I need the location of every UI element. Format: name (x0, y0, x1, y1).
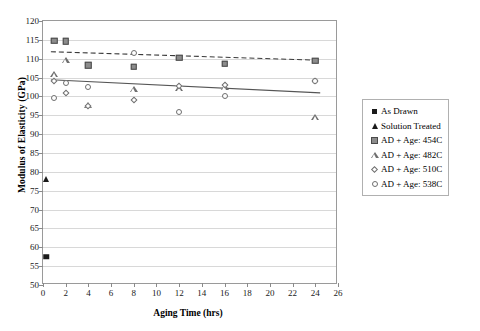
triangle-filled-icon (372, 123, 378, 129)
square-gray-icon (371, 137, 378, 144)
x-tick-label: 24 (311, 288, 320, 298)
data-point (44, 254, 50, 260)
y-tick-label: 120 (26, 16, 40, 26)
data-point (62, 57, 70, 63)
data-point (312, 78, 318, 84)
y-tick-label: 65 (30, 223, 39, 233)
data-point (176, 109, 182, 115)
y-tick-label: 60 (30, 242, 39, 252)
x-tick-mark (315, 283, 316, 287)
data-point (130, 86, 138, 92)
y-tick-label: 95 (30, 110, 39, 120)
data-point (43, 176, 49, 182)
data-point (51, 95, 57, 101)
x-axis-title: Aging Time (hrs) (38, 308, 338, 318)
x-tick-label: 12 (175, 288, 184, 298)
legend-item-label: Solution Treated (381, 121, 441, 131)
legend-marker-icon (368, 123, 381, 129)
chart-legend: As DrawnSolution TreatedAD + Age: 454CAD… (362, 99, 449, 196)
y-axis-title: Modulus of Elasticity (GPa) (17, 35, 27, 235)
legend-item[interactable]: AD + Age: 510C (368, 162, 442, 177)
y-tick-label: 75 (30, 186, 39, 196)
x-tick-mark (134, 283, 135, 287)
data-point (131, 50, 137, 56)
x-tick-label: 0 (41, 288, 46, 298)
y-tick-label: 85 (30, 148, 39, 158)
circle-open-icon (372, 181, 378, 187)
y-tick-label: 105 (26, 73, 40, 83)
x-tick-mark (66, 283, 67, 287)
legend-marker-icon (368, 137, 381, 144)
plot-area: 50556065707580859095100105110115120 0246… (42, 20, 337, 284)
x-tick-label: 6 (109, 288, 114, 298)
legend-item-label: As Drawn (381, 106, 418, 116)
data-point (176, 55, 183, 62)
x-tick-mark (293, 283, 294, 287)
x-tick-label: 16 (220, 288, 229, 298)
data-point (50, 71, 58, 77)
legend-item[interactable]: AD + Age: 482C (368, 148, 442, 163)
x-tick-label: 4 (86, 288, 91, 298)
upper-dashed-trend (51, 52, 320, 61)
triangle-open-icon (371, 152, 379, 158)
x-tick-label: 10 (152, 288, 161, 298)
x-tick-mark (43, 283, 44, 287)
x-tick-label: 26 (334, 288, 343, 298)
y-tick-label: 80 (30, 167, 39, 177)
data-point (51, 37, 58, 44)
y-tick-label: 50 (30, 280, 39, 290)
x-tick-mark (88, 283, 89, 287)
x-tick-mark (156, 283, 157, 287)
x-tick-label: 18 (243, 288, 252, 298)
legend-item-label: AD + Age: 510C (381, 164, 442, 174)
x-tick-label: 22 (288, 288, 297, 298)
x-tick-mark (338, 283, 339, 287)
legend-item-label: AD + Age: 482C (381, 150, 442, 160)
y-tick-label: 115 (26, 35, 39, 45)
legend-marker-icon (368, 181, 381, 187)
legend-marker-icon (368, 167, 381, 172)
x-tick-mark (179, 283, 180, 287)
x-tick-mark (270, 283, 271, 287)
data-point (85, 84, 91, 90)
y-tick-label: 70 (30, 205, 39, 215)
y-tick-label: 110 (26, 54, 39, 64)
data-point (62, 38, 69, 45)
data-point (311, 114, 319, 120)
data-point (222, 93, 228, 99)
y-tick-label: 90 (30, 129, 39, 139)
legend-item[interactable]: AD + Age: 538C (368, 177, 442, 192)
legend-item-label: AD + Age: 454C (381, 135, 442, 145)
data-point (312, 57, 319, 64)
x-tick-label: 8 (132, 288, 137, 298)
x-tick-label: 20 (265, 288, 274, 298)
legend-item-label: AD + Age: 538C (381, 179, 442, 189)
legend-item[interactable]: Solution Treated (368, 119, 442, 134)
square-filled-icon (372, 109, 378, 115)
y-tick-label: 100 (26, 91, 40, 101)
x-tick-mark (247, 283, 248, 287)
trendlines-layer (43, 21, 336, 283)
x-tick-mark (111, 283, 112, 287)
data-point (63, 80, 69, 86)
x-tick-label: 2 (63, 288, 68, 298)
chart-container: Modulus of Elasticity (GPa) 505560657075… (0, 0, 480, 331)
legend-item[interactable]: As Drawn (368, 104, 442, 119)
x-tick-label: 14 (197, 288, 206, 298)
legend-marker-icon (368, 152, 381, 158)
y-tick-label: 55 (30, 261, 39, 271)
legend-item[interactable]: AD + Age: 454C (368, 133, 442, 148)
data-point (85, 62, 92, 69)
legend-marker-icon (368, 109, 381, 115)
data-point (131, 63, 138, 70)
data-point (221, 61, 228, 68)
x-tick-mark (225, 283, 226, 287)
x-tick-mark (202, 283, 203, 287)
diamond-open-icon (371, 166, 378, 173)
